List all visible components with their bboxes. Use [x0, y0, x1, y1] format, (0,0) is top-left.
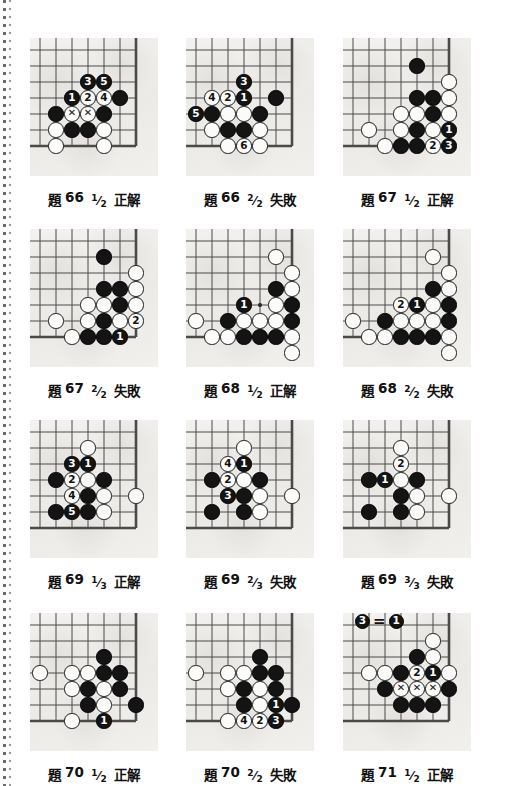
go-stone-black [48, 472, 63, 487]
go-stone-black [80, 488, 95, 503]
go-stone-black-numbered: 5 [96, 74, 111, 89]
caption-problem-word: 題 [361, 189, 374, 209]
go-stone-black [425, 281, 440, 296]
diagram-caption: 題672⁄2失敗 [30, 380, 158, 400]
caption-problem-word: 題 [48, 189, 61, 209]
go-stone-white [128, 297, 143, 312]
caption-problem-word: 題 [204, 380, 217, 400]
go-stone-white [377, 665, 392, 680]
caption-problem-number: 70 [65, 764, 84, 784]
diagram-caption: 題702⁄2失敗 [186, 764, 314, 784]
go-stone-white [96, 681, 111, 696]
go-stone-black [425, 90, 440, 105]
caption-problem-word: 題 [48, 380, 61, 400]
go-stone-white [409, 488, 424, 503]
x-mark-label: ✕ [413, 683, 421, 693]
go-stone-white [128, 488, 143, 503]
caption-result: 失敗 [270, 764, 296, 784]
diagram-caption: 題681⁄2正解 [186, 380, 314, 400]
go-stone-black-numbered: 1 [377, 472, 392, 487]
go-stone-black-numbered: 1 [409, 297, 424, 312]
caption-problem-word: 題 [361, 380, 374, 400]
caption-fraction-denominator: 3 [257, 581, 263, 591]
go-stone-white [128, 265, 143, 280]
go-stone-black [96, 329, 111, 344]
go-stone-white [188, 313, 203, 328]
go-stone-white [96, 297, 111, 312]
go-stone-white [236, 472, 251, 487]
note-right-label: 1 [392, 615, 399, 626]
go-stone-white [252, 122, 267, 137]
caption-problem-word: 題 [204, 571, 217, 591]
go-stone-black-numbered: 3 [220, 488, 235, 503]
go-stone-white [425, 249, 440, 264]
go-stone-white [409, 106, 424, 121]
caption-fraction-denominator: 2 [257, 390, 263, 400]
caption-fraction: 1⁄2 [91, 194, 107, 208]
go-stone-black-numbered: 3 [64, 456, 79, 471]
diagram-caption: 題691⁄3正解 [30, 571, 158, 591]
caption-problem-word: 題 [204, 189, 217, 209]
caption-problem-title: 題67 [361, 189, 397, 209]
go-stone-black [112, 90, 127, 105]
go-stone-white [409, 504, 424, 519]
go-stone-black [48, 504, 63, 519]
go-stone-black-numbered: 1 [425, 665, 440, 680]
diagram-caption: 題662⁄2失敗 [186, 189, 314, 209]
go-board: 21 [30, 229, 158, 367]
go-stone-white-numbered: 4 [204, 90, 219, 105]
go-stone-white [425, 633, 440, 648]
go-stone-black [409, 58, 424, 73]
move-number-label: 3 [68, 458, 75, 469]
go-stone-black [80, 122, 95, 137]
go-stone-black [204, 504, 219, 519]
go-stone-black [252, 106, 267, 121]
caption-problem-title: 題69 [204, 571, 240, 591]
caption-fraction: 1⁄2 [404, 769, 420, 783]
go-diagram-5: 1題681⁄2正解 [186, 229, 314, 401]
go-stone-black [128, 697, 143, 712]
go-stone-black-numbered: 1 [441, 122, 456, 137]
go-stone-white [345, 313, 360, 328]
caption-fraction-denominator: 2 [257, 199, 263, 209]
go-stone-black [268, 681, 283, 696]
move-number-label: 2 [224, 92, 231, 103]
caption-problem-number: 69 [378, 571, 397, 591]
go-stone-black [236, 122, 251, 137]
caption-problem-word: 題 [48, 571, 61, 591]
move-number-label: 2 [224, 474, 231, 485]
go-stone-black [393, 504, 408, 519]
caption-problem-title: 題66 [48, 189, 84, 209]
go-stone-black [80, 681, 95, 696]
go-stone-white-numbered: 4 [220, 456, 235, 471]
go-stone-white [220, 665, 235, 680]
go-stone-black [236, 681, 251, 696]
move-number-label: 1 [445, 124, 452, 135]
caption-problem-title: 題68 [204, 380, 240, 400]
caption-result: 正解 [427, 764, 453, 784]
caption-fraction-denominator: 3 [101, 581, 107, 591]
go-stone-black [409, 90, 424, 105]
board-gridlines [186, 613, 314, 751]
x-mark-label: ✕ [429, 683, 437, 693]
move-number-label: 1 [116, 331, 123, 342]
caption-problem-number: 68 [378, 380, 397, 400]
equals-sign: = [373, 612, 386, 630]
go-stone-black-numbered: 3 [236, 74, 251, 89]
go-stone-black [64, 122, 79, 137]
move-number-label: 3 [240, 76, 247, 87]
move-number-label: 1 [84, 458, 91, 469]
go-diagram-12: 21✕✕✕3=1題711⁄2正解 [343, 613, 471, 785]
go-stone-white [268, 249, 283, 264]
go-stone-black [80, 504, 95, 519]
go-stone-white [441, 345, 456, 360]
go-stone-white [96, 697, 111, 712]
go-stone-white [64, 713, 79, 728]
go-stone-white-marked-x: ✕ [80, 106, 95, 121]
go-stone-black [220, 313, 235, 328]
caption-fraction-denominator: 2 [257, 774, 263, 784]
go-stone-white-numbered: 2 [220, 472, 235, 487]
caption-result: 失敗 [427, 571, 453, 591]
go-stone-black [409, 697, 424, 712]
go-stone-white [284, 488, 299, 503]
